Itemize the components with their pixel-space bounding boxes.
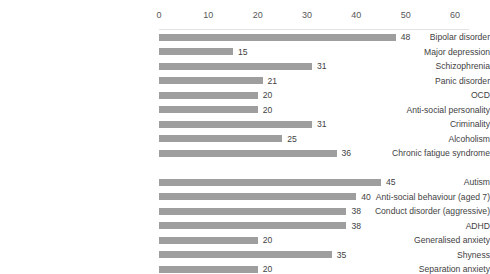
bar [159, 135, 282, 142]
bar-row: Chronic fatigue syndrome36 [0, 146, 490, 161]
bar-row: ADHD38 [0, 219, 490, 234]
bar-track [159, 161, 490, 176]
x-axis-tick-50: 50 [391, 10, 421, 21]
x-axis: 0102030405060 [0, 0, 490, 30]
x-axis-tick-60: 60 [440, 10, 470, 21]
bar-value-label: 36 [342, 146, 352, 161]
bar [159, 266, 258, 273]
bar [159, 92, 258, 99]
bar-track: 38 [159, 219, 490, 234]
x-axis-tick-0: 0 [144, 10, 174, 21]
bar-value-label: 38 [351, 204, 361, 219]
bar-value-label: 20 [263, 233, 273, 248]
bar-track: 20 [159, 262, 490, 274]
bar-track: 38 [159, 204, 490, 219]
bar-value-label: 31 [317, 59, 327, 74]
bar-track: 20 [159, 88, 490, 103]
bar-track: 15 [159, 45, 490, 60]
spacer-row [0, 161, 490, 176]
bar [159, 179, 381, 186]
bar-value-label: 20 [263, 103, 273, 118]
bar [159, 48, 233, 55]
plot-area: Bipolar disorder48Major depression15Schi… [0, 30, 490, 274]
bar-value-label: 15 [238, 45, 248, 60]
bar-row: Bipolar disorder48 [0, 30, 490, 45]
bar-value-label: 20 [263, 262, 273, 274]
bar [159, 34, 396, 41]
bar [159, 251, 332, 258]
bar-track: 45 [159, 175, 490, 190]
bar [159, 77, 263, 84]
bar-row: Shyness35 [0, 248, 490, 263]
bar-row: OCD20 [0, 88, 490, 103]
bar-row: Schizophrenia31 [0, 59, 490, 74]
bar-track: 48 [159, 30, 490, 45]
bar-value-label: 38 [351, 219, 361, 234]
bar [159, 150, 337, 157]
bar-track: 36 [159, 146, 490, 161]
bar-row: Panic disorder21 [0, 74, 490, 89]
x-axis-tick-10: 10 [193, 10, 223, 21]
bar [159, 222, 346, 229]
bar-track: 31 [159, 117, 490, 132]
bar-track: 25 [159, 132, 490, 147]
bar-track: 35 [159, 248, 490, 263]
bar-row: Anti-social behaviour (aged 7)40 [0, 190, 490, 205]
bar-row: Conduct disorder (aggressive)38 [0, 204, 490, 219]
bar-chart: 0102030405060 Bipolar disorder48Major de… [0, 0, 490, 274]
bar [159, 208, 346, 215]
x-axis-tick-20: 20 [243, 10, 273, 21]
bar-value-label: 48 [401, 30, 411, 45]
bar-track: 20 [159, 103, 490, 118]
bar-row: Major depression15 [0, 45, 490, 60]
bar-row: Criminality31 [0, 117, 490, 132]
bar-track: 21 [159, 74, 490, 89]
x-axis-tick-30: 30 [292, 10, 322, 21]
bar-value-label: 35 [337, 248, 347, 263]
bar-value-label: 45 [386, 175, 396, 190]
bar-value-label: 21 [268, 74, 278, 89]
bar-row: Generalised anxiety20 [0, 233, 490, 248]
bar [159, 63, 312, 70]
bar-value-label: 31 [317, 117, 327, 132]
bar-row: Autism45 [0, 175, 490, 190]
bar-row: Separation anxiety20 [0, 262, 490, 274]
bar [159, 237, 258, 244]
bar [159, 121, 312, 128]
bar [159, 193, 356, 200]
bar [159, 106, 258, 113]
bar-value-label: 25 [287, 132, 297, 147]
bar-row: Alcoholism25 [0, 132, 490, 147]
bar-track: 20 [159, 233, 490, 248]
x-axis-tick-40: 40 [341, 10, 371, 21]
bar-row: Anti-social personality20 [0, 103, 490, 118]
bar-value-label: 20 [263, 88, 273, 103]
bar-track: 31 [159, 59, 490, 74]
bar-track: 40 [159, 190, 490, 205]
bar-value-label: 40 [361, 190, 371, 205]
